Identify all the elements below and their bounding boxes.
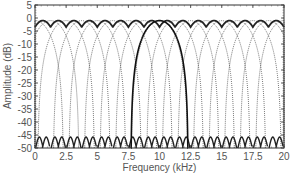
y-tick-label: -35 <box>18 104 33 115</box>
filter-bank-chart: 50-5-10-15-20-25-30-35-40-45-50 02.557.5… <box>0 0 291 176</box>
y-tick-label: 5 <box>26 0 32 11</box>
filter-lobe-curve <box>53 21 110 148</box>
x-tick-label: 10 <box>154 151 166 162</box>
y-tick-label: 0 <box>26 13 32 24</box>
filter-lobe-curve <box>69 21 126 148</box>
y-tick-label: -20 <box>18 65 33 76</box>
filter-lobe-curve <box>193 21 250 148</box>
x-tick-label: 20 <box>278 151 290 162</box>
highlighted-filter-curve <box>131 21 188 148</box>
y-tick-label: -10 <box>18 39 33 50</box>
x-tick-label: 5 <box>94 151 100 162</box>
filter-lobe-curve <box>209 21 266 148</box>
x-tick-label: 15 <box>216 151 228 162</box>
x-tick-label: 0 <box>32 151 38 162</box>
x-axis-ticks: 02.557.51012.51517.520 <box>32 5 290 162</box>
y-axis-label: Amplitude (dB) <box>2 43 13 109</box>
filter-lobe-curve <box>35 21 79 148</box>
plot-curves <box>35 21 284 148</box>
filter-lobe-curve <box>35 21 63 148</box>
y-tick-label: -45 <box>18 130 33 141</box>
filter-lobe-curve <box>147 21 204 148</box>
y-tick-label: -40 <box>18 117 33 128</box>
y-tick-label: -5 <box>23 26 32 37</box>
filter-lobe-curve <box>256 21 284 148</box>
filter-lobe-curve <box>240 21 284 148</box>
filter-lobe-curve <box>131 21 188 148</box>
filter-lobe-curve <box>38 21 95 148</box>
filter-lobe-curve <box>162 21 219 148</box>
x-tick-label: 2.5 <box>59 151 73 162</box>
filter-lobe-curve <box>116 21 173 148</box>
filter-lobe-curve <box>100 21 157 148</box>
x-axis-label: Frequency (kHz) <box>123 162 197 173</box>
envelope-curve <box>35 21 284 28</box>
y-tick-label: -30 <box>18 91 33 102</box>
y-tick-label: -15 <box>18 52 33 63</box>
y-tick-label: -25 <box>18 78 33 89</box>
y-tick-label: -50 <box>18 143 33 154</box>
filter-lobe-curve <box>224 21 281 148</box>
x-tick-label: 12.5 <box>181 151 201 162</box>
x-tick-label: 17.5 <box>243 151 263 162</box>
x-tick-label: 7.5 <box>121 151 135 162</box>
